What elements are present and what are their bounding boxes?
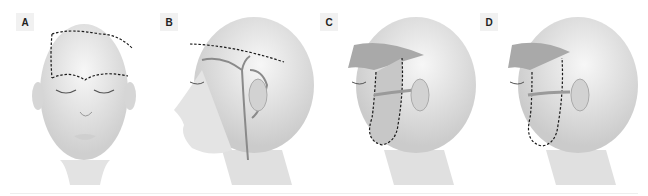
lateral-head-vessels-illustration	[162, 0, 324, 196]
lateral-head-cheek-flap-illustration	[324, 0, 486, 196]
panel-c: C	[324, 0, 486, 196]
baseline-divider	[10, 193, 638, 194]
panel-a: A	[0, 0, 162, 196]
frontal-face-illustration	[0, 0, 162, 196]
panel-d: D	[486, 0, 648, 196]
panel-b: B	[162, 0, 324, 196]
lateral-head-sutured-flap-illustration	[486, 0, 648, 196]
